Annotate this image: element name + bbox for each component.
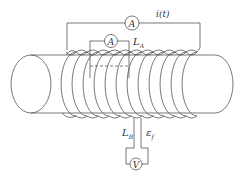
solenoid-diagram: A A V i(t) LA LB εf <box>0 0 243 180</box>
voltmeter-label: V <box>133 160 141 170</box>
coil-windings <box>61 48 200 118</box>
inner-ammeter-label: A <box>107 37 115 47</box>
emf-label: εf <box>146 127 155 141</box>
cylinder-left-end <box>11 55 51 113</box>
cylinder <box>11 55 233 113</box>
cylinder-right-end <box>215 55 233 113</box>
outer-ammeter-label: A <box>128 19 136 29</box>
loop-b-label: LB <box>121 127 134 140</box>
loop-a-label: LA <box>132 36 145 49</box>
current-label: i(t) <box>156 9 170 19</box>
